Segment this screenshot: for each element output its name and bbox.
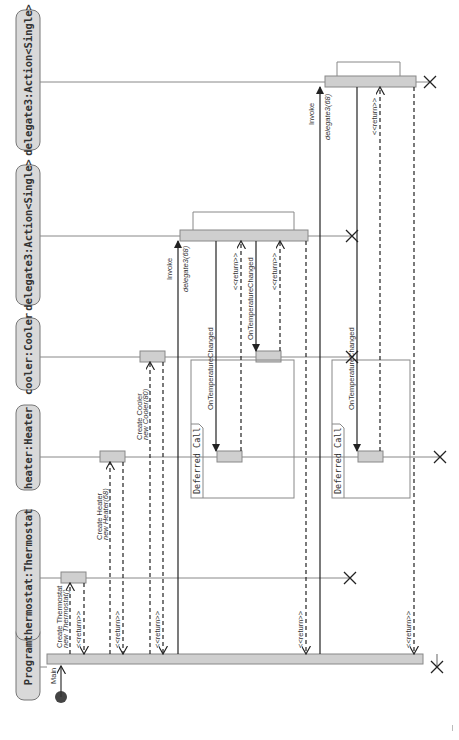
activation-heater-deferred-1 [217,451,242,462]
lifeline-label: heater:Heater [22,407,34,489]
msg-on-temperature-changed: OnTemperatureChanged [347,327,356,410]
activation-program [47,654,423,664]
lifeline-header-cooler[interactable]: cooler:Cooler [16,313,40,395]
msg-invoke-sig: delegate3(68) [323,93,332,140]
fragment-deferred-call-2: Deferred Call [332,360,410,498]
msg-on-temperature-changed: OnTemperatureChanged [206,327,215,410]
msg-return: <<return>> [296,610,305,648]
start-node: Main [49,666,67,703]
msg-on-temperature-changed: OnTemperatureChanged [246,257,255,340]
lifeline-header-heater[interactable]: heater:Heater [16,405,40,490]
msg-create-cooler-sig: new Cooler(80) [141,388,150,440]
lifeline-header-delegate3-first[interactable]: delegate3:Action<Single> [16,159,40,311]
page-edge-mark [452,725,453,731]
main-label: Main [49,668,58,684]
lifeline-label: delegate3:Action<Single> [22,4,34,156]
lifeline-header-thermostat[interactable]: thermostat:Thermostat [16,509,40,642]
activation-thermostat [61,572,86,583]
fragment-label: Deferred Call [333,427,343,494]
activation-heater-create [100,451,125,462]
destroy-icon-program [431,654,443,673]
msg-create-heater-sig: new Heater(68) [101,488,110,540]
msg-invoke: Invoke [307,103,316,125]
lifeline-label: Program [22,641,34,685]
msg-return: <<return>> [231,252,240,290]
sequence-diagram: Program thermostat:Thermostat heater:Hea… [0,0,459,740]
activation-delegate3-second [325,76,416,87]
activation-heater-deferred-2 [358,451,383,462]
msg-return: <<return>> [404,610,413,648]
activation-cooler-create [140,351,165,362]
fragment-label: Deferred Call [192,427,202,494]
destruction-marks [344,76,446,673]
activation-delegate3-first [180,230,308,241]
message-labels: Create Thermostat new Thermostat() <<ret… [55,93,413,648]
msg-return: <<return>> [74,610,83,648]
msg-invoke-sig: delegate3(68) [181,245,190,292]
activation-bars [47,76,423,664]
lifeline-label: thermostat:Thermostat [22,509,34,642]
lifeline-label: delegate3:Action<Single> [22,159,34,311]
lifeline-label: cooler:Cooler [22,313,34,395]
lifeline-header-delegate3-second[interactable]: delegate3:Action<Single> [16,4,40,156]
msg-return: <<return>> [370,97,379,135]
msg-return: <<return>> [113,610,122,648]
msg-return: <<return>> [153,610,162,648]
message-lines [70,87,414,654]
msg-return: <<return>> [270,252,279,290]
msg-invoke: Invoke [165,258,174,280]
msg-create-thermostat-sig: new Thermostat() [61,589,70,648]
